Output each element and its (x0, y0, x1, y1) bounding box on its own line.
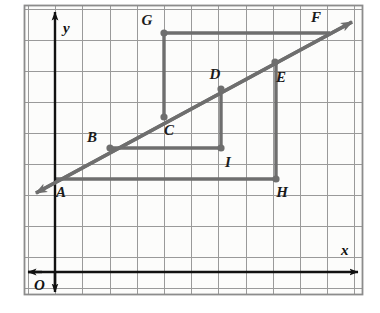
point-label-A: A (55, 184, 66, 200)
point-dot-E (271, 58, 278, 65)
point-dot-C (160, 113, 167, 120)
coordinate-plane-figure: ABCDEFGHI x y O (0, 0, 380, 313)
point-label-H: H (275, 184, 289, 200)
point-label-E: E (275, 69, 286, 85)
point-label-B: B (86, 129, 97, 145)
point-label-D: D (209, 66, 221, 82)
point-dot-H (272, 175, 279, 182)
y-axis-label: y (61, 20, 70, 36)
point-dot-D (217, 85, 224, 92)
plot-area-background (24, 5, 363, 295)
point-dot-B (106, 144, 113, 151)
point-label-F: F (310, 9, 321, 25)
point-dot-G (160, 29, 167, 36)
geometry-diagram-svg: ABCDEFGHI x y O (0, 0, 380, 313)
point-label-I: I (224, 154, 232, 170)
point-label-C: C (164, 122, 175, 138)
x-axis-label: x (340, 242, 349, 258)
origin-label: O (34, 277, 45, 293)
point-label-G: G (142, 12, 153, 28)
point-dot-I (217, 144, 224, 151)
